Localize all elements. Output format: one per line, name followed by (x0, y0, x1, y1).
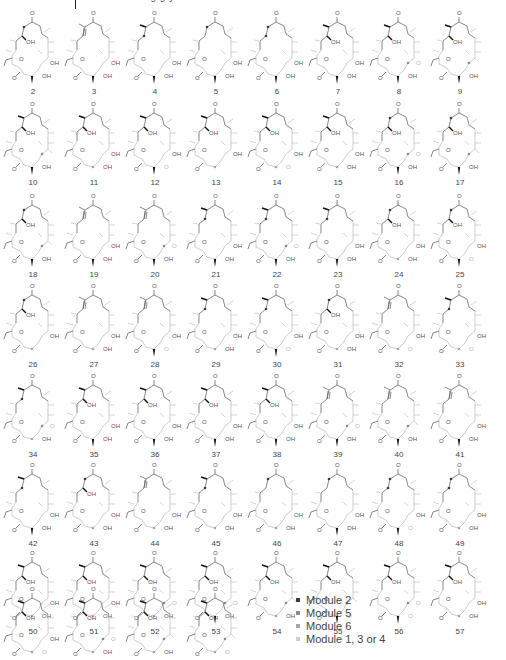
compound-number-label: 16 (368, 178, 430, 187)
macrolactone-structure-icon: OOOOHO (185, 584, 247, 660)
substituent-bottom-label: OH (347, 525, 356, 531)
compound-33: OOOOHO33 (429, 281, 491, 375)
macrolactone-structure-icon: OOOOHOHOH (368, 191, 430, 275)
hydroxyl-label: OH (453, 579, 462, 585)
wedge-bond-icon (214, 439, 216, 447)
substituent-right-label: OH (172, 512, 181, 518)
hydroxyl-label: OH (270, 402, 279, 408)
wedge-bond-icon (336, 76, 338, 84)
ketone-oxygen-label: O (152, 550, 157, 556)
square-marker-icon (296, 624, 300, 628)
compound-61: OOOOHO61 (185, 584, 247, 660)
substituent-bottom-label: OH (286, 525, 295, 531)
ester-oxygen-label: O (385, 596, 390, 602)
module-marker-icon (92, 651, 95, 654)
ester-oxygen-label: O (141, 508, 146, 514)
module-marker-icon (84, 478, 87, 481)
ketone-oxygen-label: O (213, 283, 218, 289)
ester-oxygen-label: O (324, 56, 329, 62)
compound-3: OOOOHOH3 (63, 8, 125, 102)
substituent-bottom-label: O (164, 346, 169, 352)
substituent-bottom-label: OH (347, 436, 356, 442)
ester-oxygen-label: O (80, 508, 85, 514)
compound-17: OOOOHOH17 (429, 99, 491, 193)
module-marker-icon (450, 117, 453, 120)
hydroxyl-label: OH (26, 39, 35, 45)
ketone-oxygen-label: O (30, 586, 35, 592)
ketone-oxygen-label: O (396, 462, 401, 468)
ester-oxygen-label: O (19, 419, 24, 425)
wedge-bond-icon (336, 259, 338, 267)
substituent-right-label: O (416, 151, 421, 157)
module-marker-icon (163, 638, 166, 641)
compound-35: OOOOHOHOH35 (63, 371, 125, 465)
compound-number-label: 33 (429, 360, 491, 369)
substituent-right-label: OH (233, 423, 242, 429)
module-marker-icon (389, 117, 392, 120)
hydroxyl-label: OH (26, 312, 35, 318)
ketone-oxygen-label: O (274, 283, 279, 289)
module-marker-icon (450, 209, 453, 212)
ketone-oxygen-label: O (91, 283, 96, 289)
ester-oxygen-label: O (141, 147, 146, 153)
ester-oxygen-label: O (263, 419, 268, 425)
substituent-bottom-label: OH (225, 525, 234, 531)
ester-oxygen-label: O (263, 239, 268, 245)
module-marker-icon (285, 602, 288, 605)
macrolactone-structure-icon: OOOOHOHOH (307, 281, 369, 365)
compound-number-label: 40 (368, 450, 430, 459)
ketone-oxygen-label: O (91, 462, 96, 468)
substituent-right-label: OH (477, 600, 486, 606)
substituent-bottom-label: O (408, 613, 413, 619)
macrolactone-structure-icon: OOOOOH (2, 371, 64, 455)
macrolactone-structure-icon: OOOOHOH (63, 281, 125, 365)
module-marker-icon (23, 299, 26, 302)
module-marker-icon (153, 651, 156, 654)
substituent-right-label: OH (355, 512, 364, 518)
compound-14: OOOOHOHO14 (246, 99, 308, 193)
module-marker-icon (31, 348, 34, 351)
macrolactone-structure-icon: OOOOHOHOH (307, 8, 369, 92)
module-marker-icon (448, 308, 451, 311)
compound-8: OOOOHOOH8 (368, 8, 430, 102)
substituent-right-label: OH (294, 512, 303, 518)
wedge-bond-icon (275, 439, 277, 447)
hydroxyl-label: OH (87, 130, 96, 136)
wedge-bond-icon (397, 528, 399, 536)
ester-oxygen-label: O (446, 239, 451, 245)
ester-oxygen-label: O (202, 508, 207, 514)
macrolactone-structure-icon: OOOOHOH (429, 460, 491, 544)
ester-oxygen-label: O (202, 329, 207, 335)
square-marker-icon (296, 637, 300, 641)
substituent-bottom-label: OH (347, 346, 356, 352)
compound-number-label: 23 (307, 270, 369, 279)
compound-number-label: 7 (307, 87, 369, 96)
compound-37: OOOOHOHOH37 (185, 371, 247, 465)
module-marker-icon (397, 258, 400, 261)
substituent-right-label: OH (111, 60, 120, 66)
module-marker-icon (163, 245, 166, 248)
compound-number-label: 8 (368, 87, 430, 96)
substituent-bottom-label: OH (408, 256, 417, 262)
compound-9: OOOOHOH9 (429, 8, 491, 102)
substituent-bottom-label: OH (42, 436, 51, 442)
substituent-bottom-label: OH (225, 73, 234, 79)
substituent-right-label: OH (111, 151, 120, 157)
module-marker-icon (214, 348, 217, 351)
module-marker-icon (224, 638, 227, 641)
ketone-oxygen-label: O (457, 10, 462, 16)
macrolactone-structure-icon: OOOOHOHOH (307, 99, 369, 183)
compound-grid: OOOOHOHOH2OOOOHOH3OOOOHOH4OOOOHOH5OOOOHO… (0, 0, 506, 660)
substituent-bottom-label: OH (164, 436, 173, 442)
compound-38: OOOOHOHOH38 (246, 371, 308, 465)
module-marker-icon (275, 615, 278, 618)
compound-59: OOOOHOOH59 (63, 584, 125, 660)
compound-number-label: 21 (185, 270, 247, 279)
ester-oxygen-label: O (19, 329, 24, 335)
substituent-right-label: OH (477, 333, 486, 339)
compound-20: OOOOOH20 (124, 191, 186, 285)
substituent-bottom-label: O (469, 346, 474, 352)
ketone-oxygen-label: O (30, 373, 35, 379)
module-marker-icon (275, 166, 278, 169)
compound-24: OOOOHOHOH24 (368, 191, 430, 285)
